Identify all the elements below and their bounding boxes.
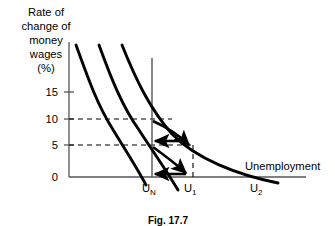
x-axis-tick-labels: U N U 1 U 2 — [142, 182, 263, 197]
figure-caption: Fig. 17.7 — [148, 215, 188, 226]
y-tick-label-15: 15 — [46, 86, 58, 98]
phillips-curve-2 — [99, 45, 178, 190]
y-axis-title-line-1: Rate of — [28, 6, 65, 18]
x-tick-label-u2-subscript: 2 — [258, 188, 263, 197]
adjustment-arrows-group — [153, 121, 189, 174]
y-axis-title-line-2: change of — [21, 20, 71, 32]
y-tick-label-0: 0 — [52, 171, 58, 183]
x-tick-label-u2: U 2 — [250, 182, 263, 197]
phillips-curve-1 — [76, 45, 146, 185]
x-tick-label-u1-base: U — [184, 182, 192, 194]
x-tick-label-un: U N — [142, 182, 156, 197]
y-axis-title-line-3: money — [29, 34, 63, 46]
y-axis-title: Rate of change of money wages (%) — [21, 6, 71, 74]
figure-canvas: Rate of change of money wages (%) 15 10 … — [0, 0, 335, 226]
x-axis-title: Unemployment — [245, 160, 321, 172]
y-axis-ticks: 15 10 5 0 — [46, 86, 74, 183]
phillips-curve-figure: Rate of change of money wages (%) 15 10 … — [0, 0, 335, 226]
guide-lines — [69, 119, 193, 177]
x-tick-label-u2-base: U — [250, 182, 258, 194]
y-tick-label-10: 10 — [46, 113, 58, 125]
y-axis-title-line-4: wages — [29, 48, 63, 60]
y-tick-label-5: 5 — [52, 139, 58, 151]
y-axis-title-line-5: (%) — [37, 62, 55, 74]
x-tick-label-un-base: U — [142, 182, 150, 194]
x-tick-label-u1: U 1 — [184, 182, 197, 197]
x-tick-label-un-subscript: N — [150, 188, 156, 197]
x-tick-label-u1-subscript: 1 — [192, 188, 197, 197]
